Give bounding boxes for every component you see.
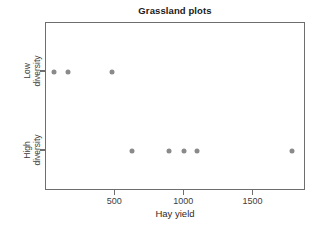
data-point [181, 149, 186, 154]
x-axis-tick-mark [183, 190, 184, 195]
x-axis-tick-label: 1000 [173, 196, 193, 206]
x-axis-tick-mark [252, 190, 253, 195]
y-axis-category-label: Low diversity [22, 43, 44, 99]
data-point [66, 70, 71, 75]
data-point [290, 149, 295, 154]
data-point [195, 149, 200, 154]
x-axis-tick-label: 500 [107, 196, 122, 206]
plot-area [45, 22, 305, 190]
grassland-plots-chart: Grassland plots Low diversityHigh divers… [0, 0, 323, 234]
data-point [130, 149, 135, 154]
x-axis-tick-label: 1500 [242, 196, 262, 206]
x-axis-tick-mark [114, 190, 115, 195]
data-point [109, 70, 114, 75]
y-axis-category-label: High diversity [22, 122, 44, 178]
data-point [167, 149, 172, 154]
chart-title: Grassland plots [45, 5, 305, 16]
data-point [52, 70, 57, 75]
x-axis-title: Hay yield [45, 208, 305, 219]
